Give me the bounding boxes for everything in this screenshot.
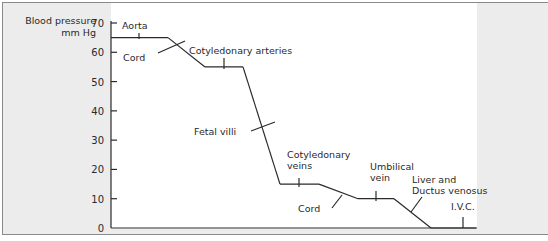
annotation-label: Fetal villi xyxy=(194,126,236,137)
annotation-label: Liver and xyxy=(412,174,456,185)
y-tick-label: 10 xyxy=(91,194,104,205)
annotation-label: vein xyxy=(370,172,390,183)
annotation-label: Cotyledonary arteries xyxy=(189,45,292,56)
y-axis-label-line1: Blood pressure xyxy=(25,15,96,26)
y-tick-label: 20 xyxy=(91,164,104,175)
y-tick-label: 0 xyxy=(98,223,104,234)
y-axis-label: Blood pressure mm Hg xyxy=(25,15,96,38)
annotation-label: Cotyledonary xyxy=(287,149,351,160)
blood-pressure-chart: Blood pressure mm Hg 010203040506070 Aor… xyxy=(3,3,548,236)
annotation-label: Ductus venosus xyxy=(412,185,488,196)
annotation-label: Cord xyxy=(123,52,145,63)
figure-panel: Blood pressure mm Hg 010203040506070 Aor… xyxy=(2,2,548,235)
y-tick-label: 60 xyxy=(91,47,104,58)
annotation-label: I.V.C. xyxy=(451,201,475,212)
y-tick-label: 30 xyxy=(91,135,104,146)
y-tick-label: 70 xyxy=(91,18,104,29)
y-tick-label: 40 xyxy=(91,106,104,117)
y-tick-label: 50 xyxy=(91,77,104,88)
annotation-label: Aorta xyxy=(122,20,148,31)
annotation-label: Cord xyxy=(298,203,320,214)
annotation-label: veins xyxy=(287,160,312,171)
annotation-label: Umbilical xyxy=(370,161,414,172)
